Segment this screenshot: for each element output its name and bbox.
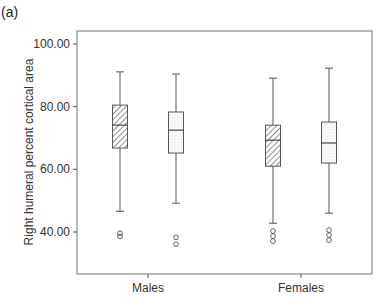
boxes (113, 68, 337, 246)
outlier-point (271, 229, 276, 234)
y-tick-label: 100.00 (33, 37, 70, 51)
box-hatched-females (266, 78, 281, 243)
iqr-box (169, 112, 184, 153)
outlier-point (174, 235, 179, 240)
x-axis: MalesFemales (132, 274, 324, 295)
y-axis-title: Right humeral percent cortical area (22, 58, 36, 245)
x-tick-label: Females (278, 281, 324, 295)
outlier-point (271, 234, 276, 239)
outlier-point (327, 238, 332, 243)
outlier-point (327, 233, 332, 238)
iqr-box (113, 105, 128, 148)
outlier-point (174, 242, 179, 247)
box-hatched-males (113, 72, 128, 239)
box-dotted-males (169, 74, 184, 247)
y-tick-label: 80.00 (40, 100, 70, 114)
outlier-point (118, 234, 123, 239)
outlier-point (327, 228, 332, 233)
x-tick-label: Males (132, 281, 164, 295)
y-tick-label: 60.00 (40, 162, 70, 176)
boxplot-chart: 40.0060.0080.00100.00 MalesFemales Right… (0, 0, 392, 307)
iqr-box (266, 125, 281, 166)
outlier-point (271, 239, 276, 244)
y-tick-label: 40.00 (40, 225, 70, 239)
box-dotted-females (322, 68, 337, 242)
y-axis: 40.0060.0080.00100.00 (33, 37, 77, 239)
